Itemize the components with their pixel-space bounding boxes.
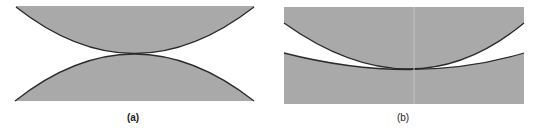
upper-convex-body xyxy=(16,6,254,54)
contact-diagram xyxy=(0,0,534,131)
panel-b xyxy=(284,7,524,104)
panel-b-label: (b) xyxy=(383,112,423,123)
panel-a xyxy=(15,6,254,101)
upper-convex-body xyxy=(284,7,524,69)
panel-a-label: (a) xyxy=(113,112,153,123)
